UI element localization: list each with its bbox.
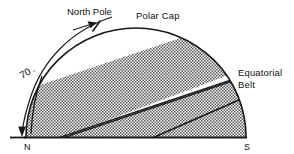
north-pole-tick (93, 21, 101, 32)
north-pole-label: North Pole (67, 6, 112, 17)
polar-cap-label: Polar Cap (136, 10, 180, 21)
hemisphere-zones-diagram: 70 ° North Pole Polar Cap Equatorial Bel… (0, 0, 294, 154)
equatorial-belt-label-line1: Equatorial (238, 67, 282, 78)
equatorial-belt-label-line2: Belt (238, 79, 255, 90)
angle-sweep-arrowhead (18, 127, 26, 138)
pole-s-label: S (244, 142, 250, 152)
angle-label-value: 70 (18, 66, 33, 81)
pole-n-label: N (24, 142, 31, 152)
angle-label-degree-symbol: ° (32, 69, 38, 76)
